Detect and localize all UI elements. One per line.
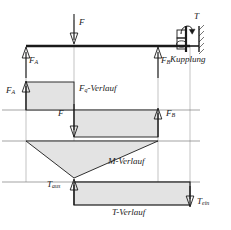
label-shear-f: F: [58, 109, 64, 118]
label-coupling: Kupplung: [170, 55, 206, 64]
suffix-verlauf: -Verlauf: [116, 207, 145, 217]
suffix-verlauf: -Verlauf: [116, 156, 145, 166]
label-shear-fq-verlauf: Fq-Verlauf: [79, 84, 117, 93]
label-torque-t-top: T: [194, 12, 199, 21]
subscript-b: B: [167, 59, 171, 65]
label-moment-verlauf: M-Verlauf: [108, 157, 145, 166]
label-torque-t-ein: Tein: [197, 197, 209, 206]
shear-positive-block: [26, 82, 74, 110]
subscript-aus: aus: [52, 183, 60, 189]
subscript-a: A: [35, 59, 39, 65]
label-reaction-fb-beam: FB: [161, 56, 170, 65]
label-torque-t-aus: Taus: [47, 180, 60, 189]
applied-force-f-arrow: [70, 14, 78, 44]
wall-hatching: [199, 25, 204, 54]
suffix-verlauf: -Verlauf: [88, 83, 117, 93]
label-torque-verlauf: T-Verlauf: [112, 208, 145, 217]
label-shear-fa: FA: [6, 86, 15, 95]
shear-negative-block: [74, 110, 158, 137]
subscript-b: B: [172, 112, 176, 118]
torque-diagram: [74, 182, 190, 205]
label-reaction-fa-beam: FA: [29, 56, 38, 65]
label-force-f-top: F: [79, 18, 85, 27]
torque-block: [74, 182, 190, 205]
beam-diagram-figure: F T Kupplung FA FB FA Fq-Verlauf F FB M-…: [0, 0, 231, 230]
label-shear-fb: FB: [166, 109, 175, 118]
subscript-ein: ein: [202, 200, 209, 206]
subscript-a: A: [12, 89, 16, 95]
